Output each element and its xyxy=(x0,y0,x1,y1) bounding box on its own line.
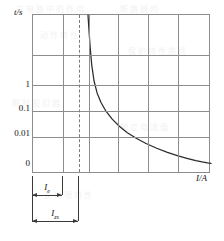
tripping-time-curve xyxy=(33,15,211,174)
dimension-arrow xyxy=(32,193,37,197)
dimension-symbol: I xyxy=(51,208,54,218)
grid-line-horizontal xyxy=(33,55,209,56)
dimension-subscript: zs xyxy=(54,214,59,220)
dimension-subscript: e xyxy=(47,188,50,194)
dimension-arrow xyxy=(57,193,62,197)
grid-line-vertical xyxy=(148,15,149,172)
dimension-arrow xyxy=(73,219,78,223)
grid-line-vertical xyxy=(118,15,119,172)
dimension-line xyxy=(32,221,78,222)
y-axis-tick-label: 1 xyxy=(0,79,30,89)
grid-line-horizontal xyxy=(33,111,209,112)
grid-line-horizontal xyxy=(33,85,209,86)
solid-threshold-line xyxy=(89,15,90,172)
dimension-line xyxy=(32,195,62,196)
y-axis-tick-label: 0.01 xyxy=(0,128,30,138)
y-axis-tick-labels: 10.10.010 xyxy=(0,0,30,241)
y-axis-tick-label: 0 xyxy=(0,158,30,168)
inverse-time-characteristic-figure: t/s I/A 10.10.010 Ie Izs xyxy=(0,0,224,241)
dimension-witness-line xyxy=(78,176,79,221)
grid-line-vertical xyxy=(63,15,64,172)
plot-area xyxy=(32,14,210,173)
dimension-label-ie: Ie xyxy=(44,182,50,194)
grid-line-vertical xyxy=(178,15,179,172)
grid-line-horizontal xyxy=(33,137,209,138)
x-axis-title: I/A xyxy=(196,173,207,183)
dimension-witness-line xyxy=(32,176,33,221)
dimension-witness-line xyxy=(62,176,63,195)
dimension-symbol: I xyxy=(44,182,47,192)
dimension-label-izs: Izs xyxy=(51,208,59,220)
y-axis-tick-label: 0.1 xyxy=(0,103,30,113)
dimension-witness-line xyxy=(32,176,33,195)
dimension-arrow xyxy=(32,219,37,223)
dashed-threshold-line xyxy=(79,15,80,172)
